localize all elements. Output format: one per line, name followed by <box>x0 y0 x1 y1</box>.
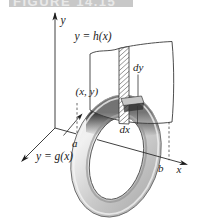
figure-number-text: FIGURE 14.15 <box>13 0 133 7</box>
point-label: (x, y) <box>76 85 99 98</box>
x-axis-label: x <box>176 163 182 175</box>
figure-number-banner: FIGURE 14.15 <box>9 0 133 7</box>
curved-wall-surface <box>90 42 174 124</box>
upper-curve-label: y = h(x) <box>74 30 112 43</box>
dy-label: dy <box>133 61 144 73</box>
dx-label: dx <box>120 123 131 135</box>
textbook-figure: y y = h(x) (x, y) dy dx a y = g(x) b x F… <box>0 0 197 224</box>
bound-b-label: b <box>158 162 164 174</box>
lower-curve-label: y = g(x) <box>35 150 73 163</box>
y-axis-label: y <box>60 14 67 27</box>
bound-a-label: a <box>72 137 78 149</box>
hatched-strip <box>119 43 129 127</box>
solid-of-revolution-diagram: y y = h(x) (x, y) dy dx a y = g(x) b x <box>0 0 197 224</box>
